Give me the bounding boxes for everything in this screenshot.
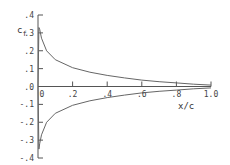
x-tick-label: .4 (102, 90, 112, 99)
axes (38, 15, 211, 158)
y-tick-label: .4 (24, 11, 34, 20)
x-zero-label: 0 (40, 90, 45, 99)
x-tick-label: .6 (137, 90, 147, 99)
y-tick-label: -.4 (20, 154, 35, 163)
curves (38, 28, 211, 150)
x-tick-label: .2 (68, 90, 78, 99)
y-tick-label: .1 (24, 65, 34, 74)
upper-surface-curve (38, 28, 211, 87)
x-tick-label: .8 (172, 90, 182, 99)
skin-friction-chart: .4.3.2.1.0-.1-.2-.3-.4.2.4.6.81.00 cf x/… (0, 0, 230, 165)
y-tick-label: -.1 (20, 100, 35, 109)
y-tick-label: -.2 (20, 118, 35, 127)
y-axis-label: cf (17, 25, 27, 38)
y-tick-label: .0 (24, 83, 34, 92)
x-tick-label: 1.0 (204, 90, 219, 99)
y-tick-label: .2 (24, 47, 34, 56)
y-tick-label: -.3 (20, 136, 35, 145)
x-axis-label: x/c (178, 101, 194, 111)
lower-surface-curve (38, 87, 211, 150)
